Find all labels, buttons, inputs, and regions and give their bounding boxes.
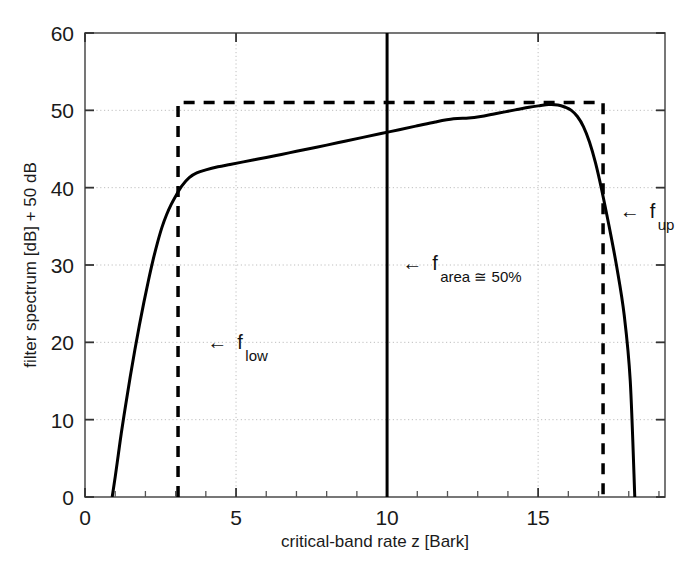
annotation-subscript: low — [245, 347, 268, 364]
y-tick-label: 30 — [51, 254, 74, 277]
annotation-subscript: up — [658, 216, 675, 233]
chart-background — [0, 0, 692, 571]
arrow-left-icon: ← — [402, 252, 422, 274]
x-tick-label: 15 — [526, 506, 549, 529]
y-tick-label: 10 — [51, 409, 74, 432]
y-tick-label: 40 — [51, 177, 74, 200]
annotation-symbol: f — [432, 252, 438, 274]
filter-spectrum-chart: 0510150102030405060 ←flow←farea ≅ 50%←fu… — [0, 0, 692, 571]
annotation-subscript: area ≅ 50% — [440, 268, 521, 285]
arrow-left-icon: ← — [620, 200, 640, 222]
x-axis-title: critical-band rate z [Bark] — [281, 532, 469, 551]
y-tick-label: 50 — [51, 99, 74, 122]
y-tick-label: 20 — [51, 331, 74, 354]
x-tick-label: 0 — [79, 506, 91, 529]
y-tick-label: 0 — [62, 486, 74, 509]
chart-figure: 0510150102030405060 ←flow←farea ≅ 50%←fu… — [0, 0, 692, 571]
annotation-symbol: f — [650, 200, 656, 222]
x-tick-label: 10 — [375, 506, 398, 529]
annotation-symbol: f — [237, 331, 243, 353]
x-tick-label: 5 — [230, 506, 242, 529]
y-tick-label: 60 — [51, 22, 74, 45]
y-axis-title: filter spectrum [dB] + 50 dB — [21, 162, 40, 368]
arrow-left-icon: ← — [207, 331, 227, 353]
